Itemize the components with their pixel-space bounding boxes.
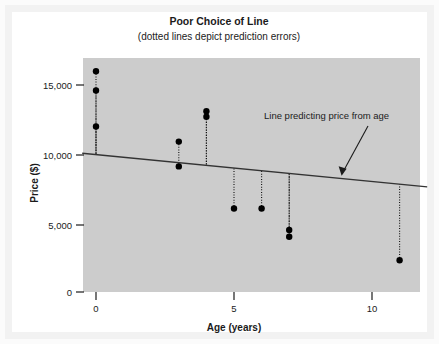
chart-subtitle: (dotted lines depict prediction errors): [138, 31, 300, 42]
plot-panel-background: [83, 58, 420, 292]
data-point: [93, 123, 99, 129]
x-tick-label-10: 10: [367, 303, 378, 314]
data-point: [176, 163, 182, 169]
data-point: [176, 138, 182, 144]
data-point: [286, 234, 292, 240]
chart-title: Poor Choice of Line: [169, 15, 268, 27]
data-point: [203, 108, 209, 114]
x-axis: 0 5 10: [93, 292, 377, 314]
data-point: [258, 205, 264, 211]
x-axis-title: Age (years): [207, 322, 261, 333]
x-tick-label-5: 5: [231, 303, 236, 314]
data-point: [286, 227, 292, 233]
data-point: [93, 68, 99, 74]
data-point: [203, 114, 209, 120]
y-tick-label-0: 0: [67, 287, 72, 298]
data-point: [93, 87, 99, 93]
x-tick-label-0: 0: [93, 303, 98, 314]
y-tick-label-15000: 15,000: [43, 80, 72, 91]
y-tick-label-10000: 10,000: [43, 150, 72, 161]
y-axis: 15,000 10,000 5,000 0: [43, 80, 84, 298]
y-axis-title: Price ($): [29, 163, 40, 202]
figure-page: Poor Choice of Line (dotted lines depict…: [0, 0, 439, 344]
scatter-plot-svg: Poor Choice of Line (dotted lines depict…: [0, 0, 439, 344]
chart-figure: Poor Choice of Line (dotted lines depict…: [0, 0, 439, 344]
data-point: [396, 257, 402, 263]
data-point: [231, 205, 237, 211]
y-tick-label-5000: 5,000: [48, 220, 72, 231]
line-annotation-label: Line predicting price from age: [264, 110, 389, 121]
